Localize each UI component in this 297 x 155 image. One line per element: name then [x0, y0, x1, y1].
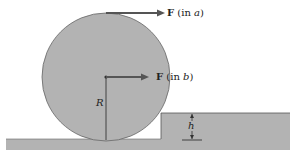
diagram-canvas — [0, 0, 297, 155]
arrowhead-a — [157, 10, 165, 17]
force-label-b: F (in b) — [156, 72, 193, 82]
force-label-a: F (in a) — [167, 8, 204, 18]
radius-label: R — [96, 98, 104, 108]
height-label: h — [188, 121, 194, 131]
step-block — [161, 113, 290, 150]
